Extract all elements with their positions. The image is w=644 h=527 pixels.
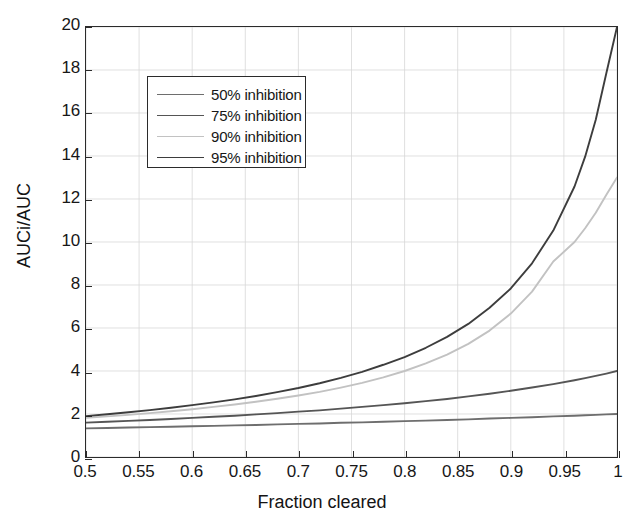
legend-label: 90% inhibition xyxy=(211,128,302,145)
legend-swatch-line-icon xyxy=(157,115,204,116)
y-tick-10 xyxy=(85,27,92,28)
x-tick-label-10: 1 xyxy=(583,462,644,482)
x-tick-5 xyxy=(353,451,354,458)
y-tick-label-2: 4 xyxy=(40,361,80,381)
y-tick-label-6: 12 xyxy=(40,188,80,208)
y-tick-8 xyxy=(85,113,92,114)
y-tick-0 xyxy=(85,459,92,460)
x-axis-title: Fraction cleared xyxy=(0,492,644,513)
y-tick-1 xyxy=(85,416,92,417)
y-tick-label-3: 6 xyxy=(40,317,80,337)
y-tick-label-8: 16 xyxy=(40,101,80,121)
legend-label: 95% inhibition xyxy=(211,149,302,166)
y-tick-6 xyxy=(85,200,92,201)
legend-item-0[interactable]: 50% inhibition xyxy=(148,84,305,105)
y-tick-2 xyxy=(85,373,92,374)
y-tick-3 xyxy=(85,329,92,330)
legend-item-3[interactable]: 95% inhibition xyxy=(148,147,305,168)
chart-figure: 0.50.550.60.650.70.750.80.850.90.951 024… xyxy=(0,0,644,527)
legend-label: 50% inhibition xyxy=(211,86,302,103)
y-tick-5 xyxy=(85,243,92,244)
legend-item-1[interactable]: 75% inhibition xyxy=(148,105,305,126)
legend-swatch-line-icon xyxy=(157,94,204,95)
x-tick-4 xyxy=(299,451,300,458)
y-tick-label-4: 8 xyxy=(40,274,80,294)
y-tick-labels: 02468101214161820 xyxy=(36,0,80,527)
y-tick-label-7: 14 xyxy=(40,145,80,165)
y-tick-7 xyxy=(85,157,92,158)
x-tick-7 xyxy=(459,451,460,458)
y-tick-label-5: 10 xyxy=(40,231,80,251)
y-tick-label-10: 20 xyxy=(40,15,80,35)
x-tick-0 xyxy=(86,451,87,458)
x-tick-8 xyxy=(512,451,513,458)
y-tick-label-9: 18 xyxy=(40,58,80,78)
x-tick-3 xyxy=(246,451,247,458)
x-tick-6 xyxy=(406,451,407,458)
y-tick-label-1: 2 xyxy=(40,404,80,424)
legend-swatch-line-icon xyxy=(157,157,204,158)
y-tick-9 xyxy=(85,70,92,71)
legend-box: 50% inhibition75% inhibition90% inhibiti… xyxy=(147,76,306,168)
legend-label: 75% inhibition xyxy=(211,107,302,124)
legend-swatch-line-icon xyxy=(157,136,204,137)
x-tick-10 xyxy=(619,451,620,458)
y-tick-4 xyxy=(85,286,92,287)
x-tick-1 xyxy=(139,451,140,458)
legend-item-2[interactable]: 90% inhibition xyxy=(148,126,305,147)
x-tick-9 xyxy=(566,451,567,458)
y-tick-label-0: 0 xyxy=(40,447,80,467)
x-tick-2 xyxy=(193,451,194,458)
y-axis-title: AUCi/AUC xyxy=(14,116,35,336)
